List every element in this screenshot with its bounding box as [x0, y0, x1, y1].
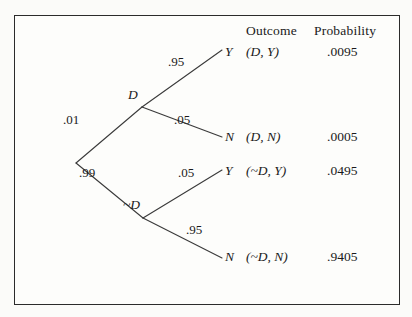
outcome-value: (D, N) — [246, 130, 281, 144]
edge-label-not-d-yes: .05 — [178, 166, 194, 179]
edge-label-root-d: .01 — [63, 113, 79, 126]
probability-value: .0495 — [327, 164, 357, 178]
probability-value: .9405 — [327, 250, 357, 264]
probability-value: .0095 — [327, 45, 357, 59]
leaf-letter: Y — [225, 45, 233, 59]
column-header-probability: Probability — [314, 24, 376, 38]
node-label-not-d: ~D — [123, 198, 140, 212]
outcome-value: (D, Y) — [246, 45, 279, 59]
figure-canvas: Outcome Probability D ~D .01 .99 .95 .05… — [0, 0, 412, 317]
edge-label-d-no: .05 — [174, 113, 190, 126]
leaf-letter: Y — [225, 164, 233, 178]
column-header-outcome: Outcome — [246, 24, 297, 38]
edge-label-root-not-d: .99 — [79, 166, 95, 179]
edge-label-not-d-no: .95 — [186, 223, 202, 236]
leaf-letter: N — [225, 250, 234, 264]
outcome-value: (~D, N) — [246, 250, 288, 264]
node-label-d: D — [128, 88, 138, 102]
leaf-letter: N — [225, 130, 234, 144]
probability-value: .0005 — [327, 130, 357, 144]
outcome-value: (~D, Y) — [246, 164, 286, 178]
edge-label-d-yes: .95 — [168, 55, 184, 68]
